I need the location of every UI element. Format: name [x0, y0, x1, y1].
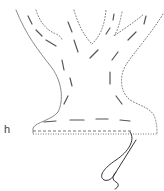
branch-outline-3 — [114, 12, 144, 36]
cord-end-curl — [113, 172, 118, 189]
tree-diagram: h — [0, 0, 164, 191]
height-label: h — [4, 123, 10, 135]
branch-outline-1 — [36, 10, 62, 40]
hanging-cord — [102, 132, 136, 180]
branch-outline-2 — [74, 10, 106, 44]
trunk-left-outline — [16, 10, 61, 133]
bark-dashes — [28, 14, 146, 122]
trunk-right-outline — [122, 14, 164, 134]
